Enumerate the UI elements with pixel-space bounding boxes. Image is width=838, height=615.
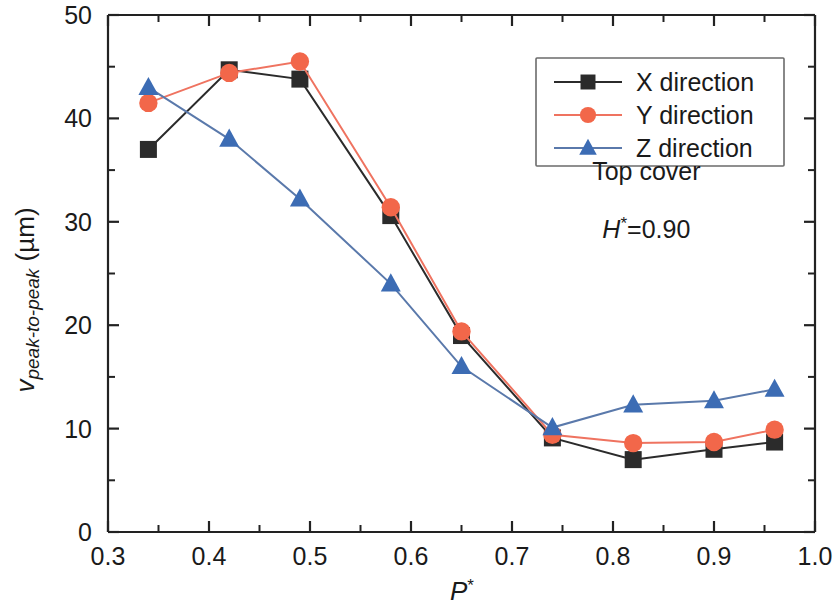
data-point-circle	[452, 322, 470, 340]
y-axis-title-sub: peak-to-peak	[22, 267, 43, 380]
legend-marker-square	[581, 75, 596, 90]
data-point-circle	[382, 198, 400, 216]
line-chart: 0.30.40.50.60.70.80.91.0 01020304050 X d…	[0, 0, 838, 615]
y-axis-title: vpeak-to-peak (µm)	[10, 207, 43, 392]
data-point-square	[140, 141, 157, 158]
legend-item-label: X direction	[636, 68, 754, 96]
annotation-top-cover: Top cover	[592, 157, 700, 185]
y-tick-label: 10	[64, 415, 92, 443]
y-tick-label: 0	[78, 518, 92, 546]
x-tick-label: 0.6	[394, 542, 429, 570]
y-tick-label: 50	[64, 1, 92, 29]
annotation-h-value: =0.90	[627, 215, 690, 243]
data-point-triangle	[138, 77, 158, 95]
chart-annotations: Top coverH*=0.90	[592, 157, 700, 243]
y-tick-label: 20	[64, 311, 92, 339]
x-tick-label: 0.9	[697, 542, 732, 570]
x-tick-label: 0.5	[293, 542, 328, 570]
x-tick-labels: 0.30.40.50.60.70.80.91.0	[91, 542, 833, 570]
x-axis-title: P*	[450, 576, 474, 607]
y-axis-title-unit: (µm)	[10, 207, 40, 268]
y-tick-labels: 01020304050	[64, 1, 92, 546]
data-point-circle	[705, 433, 723, 451]
legend-marker-circle	[580, 107, 596, 123]
data-point-triangle	[219, 129, 239, 147]
y-tick-label: 30	[64, 208, 92, 236]
data-point-circle	[220, 64, 238, 82]
chart-legend: X directionY directionZ direction	[536, 58, 784, 166]
data-point-circle	[765, 420, 783, 438]
x-tick-label: 1.0	[798, 542, 833, 570]
x-axis-title-sup: *	[467, 576, 474, 595]
annotation-h-symbol: H	[602, 215, 621, 243]
svg-text:P*: P*	[450, 576, 474, 607]
svg-text:vpeak-to-peak (µm): vpeak-to-peak (µm)	[10, 207, 43, 392]
x-axis-title-main: P	[450, 576, 468, 606]
data-point-triangle	[765, 379, 785, 397]
data-point-circle	[139, 94, 157, 112]
x-tick-label: 0.7	[495, 542, 530, 570]
data-point-square	[291, 71, 308, 88]
chart-figure: 0.30.40.50.60.70.80.91.0 01020304050 X d…	[0, 0, 838, 615]
x-tick-label: 0.8	[596, 542, 631, 570]
data-point-triangle	[290, 189, 310, 207]
annotation-h-star: H*=0.90	[602, 214, 690, 244]
x-tick-label: 0.3	[91, 542, 126, 570]
data-point-square	[625, 451, 642, 468]
y-tick-label: 40	[64, 104, 92, 132]
data-point-circle	[291, 52, 309, 70]
legend-item-label: Y direction	[636, 101, 754, 129]
x-tick-label: 0.4	[192, 542, 227, 570]
data-point-triangle	[623, 394, 643, 412]
data-point-circle	[624, 434, 642, 452]
